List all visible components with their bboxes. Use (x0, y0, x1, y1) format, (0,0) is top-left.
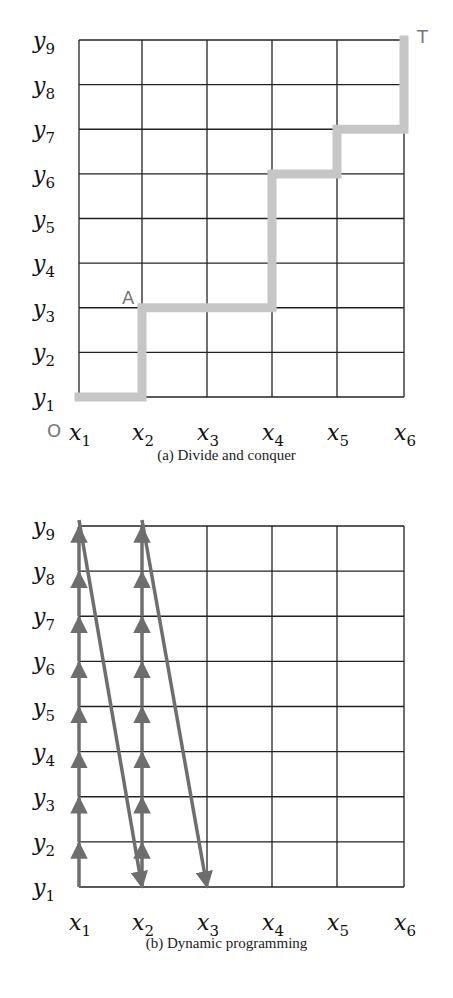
y-axis-label-y5: y5 (32, 207, 55, 237)
caption-b: (b) Dynamic programming (0, 935, 453, 952)
y-axis-label-y2: y2 (32, 340, 55, 370)
y-axis-label-y8: y8 (32, 73, 55, 103)
x-axis-label-x4: x4 (262, 420, 284, 450)
y-axis-label-y9: y9 (32, 514, 55, 544)
y-axis-label-y7: y7 (32, 604, 55, 634)
midpoint-label-A: A (122, 287, 135, 308)
x-axis-label-x5: x5 (327, 420, 349, 450)
diagonal-return-arrow (79, 520, 142, 887)
grid (79, 526, 404, 887)
y-axis-label-y1: y1 (32, 875, 55, 905)
y-axis-label-y6: y6 (32, 162, 55, 192)
origin-label-O: O (47, 420, 61, 441)
x-axis-label-x2: x2 (132, 420, 154, 450)
x-axis-label-x1: x1 (69, 420, 91, 450)
x-axis-label-x3: x3 (197, 420, 219, 450)
y-axis-label-y3: y3 (32, 785, 55, 815)
grid (79, 40, 404, 397)
caption-a: (a) Divide and conquer (0, 447, 453, 464)
y-axis-label-y1: y1 (32, 385, 55, 415)
y-axis-label-y9: y9 (32, 28, 55, 58)
target-label-T: T (416, 26, 429, 47)
y-axis-label-y8: y8 (32, 559, 55, 589)
y-axis-label-y2: y2 (32, 830, 55, 860)
y-axis-label-y7: y7 (32, 117, 55, 147)
y-axis-label-y4: y4 (32, 740, 55, 770)
y-axis-label-y6: y6 (32, 649, 55, 679)
panel-divide-and-conquer: y1y2y3y4y5y6y7y8y9x1x2x3x4x5x6OAT (a) Di… (0, 0, 453, 490)
dp-arrows (79, 520, 207, 887)
panel-dynamic-programming: y1y2y3y4y5y6y7y8y9x1x2x3x4x5x6 (b) Dynam… (0, 490, 453, 998)
y-axis-label-y3: y3 (32, 296, 55, 326)
x-axis-label-x6: x6 (394, 420, 416, 450)
y-axis-label-y5: y5 (32, 695, 55, 725)
grid-diagram-b: y1y2y3y4y5y6y7y8y9x1x2x3x4x5x6 (0, 490, 453, 950)
diagonal-return-arrow (142, 520, 207, 887)
y-axis-label-y4: y4 (32, 251, 55, 281)
grid-diagram-a: y1y2y3y4y5y6y7y8y9x1x2x3x4x5x6OAT (0, 0, 453, 460)
